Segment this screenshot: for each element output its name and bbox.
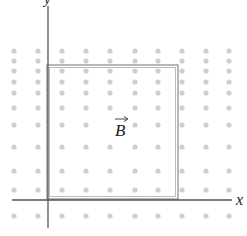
field-dot [83,68,88,73]
field-dot [35,48,40,53]
field-dot [132,48,137,53]
field-dot [226,168,231,173]
field-dot [203,213,208,218]
field-dot [35,68,40,73]
field-dot [83,90,88,95]
field-dot [35,122,40,127]
field-dot [132,79,137,84]
magnetic-field-label: B [115,117,128,141]
field-dot [132,68,137,73]
field-dot [155,213,160,218]
field-dot [226,48,231,53]
field-dot [59,168,64,173]
field-dot [179,90,184,95]
field-dot [155,144,160,149]
y-axis-label: y [42,0,51,7]
field-dot [155,122,160,127]
field-dot [203,122,208,127]
field-dot [83,105,88,110]
field-dot [132,144,137,149]
field-dot [179,168,184,173]
field-dot [59,79,64,84]
field-dot [132,213,137,218]
field-dot [155,105,160,110]
field-dot [83,58,88,63]
field-dot [132,168,137,173]
diagram-canvas: y x B [0,0,247,236]
field-dot [203,187,208,192]
field-dot [83,48,88,53]
field-dot [203,90,208,95]
field-symbol-b: B [115,121,126,140]
field-dot [226,187,231,192]
field-dot [203,68,208,73]
field-dot [203,105,208,110]
field-dot [35,105,40,110]
field-dot [155,79,160,84]
field-dot [35,213,40,218]
field-dot [107,68,112,73]
field-dot [155,168,160,173]
field-dot [107,213,112,218]
field-dot [226,90,231,95]
field-dot [107,90,112,95]
field-dot [35,168,40,173]
field-dot [132,187,137,192]
field-dot [203,79,208,84]
field-dot [11,144,16,149]
field-dot [83,187,88,192]
field-dot [226,144,231,149]
field-dot [59,213,64,218]
field-dot [107,187,112,192]
field-dot [11,79,16,84]
field-dot [83,122,88,127]
x-axis-label: x [235,191,243,208]
square-loop [47,65,178,199]
field-dot [203,144,208,149]
field-dot [226,79,231,84]
field-dot [11,213,16,218]
field-dot [11,122,16,127]
field-dot [179,58,184,63]
field-dot [155,58,160,63]
field-dot [179,68,184,73]
field-dot [11,187,16,192]
field-dot [107,144,112,149]
field-dot [107,105,112,110]
field-dot [179,122,184,127]
field-dot [83,213,88,218]
field-dot [226,58,231,63]
field-dot [83,144,88,149]
field-dot [179,79,184,84]
field-dot [107,48,112,53]
field-dot [107,58,112,63]
field-dot [11,58,16,63]
field-dot [35,187,40,192]
field-dot [179,144,184,149]
field-dot [155,48,160,53]
field-dot [35,79,40,84]
field-dot [11,48,16,53]
field-dot [59,58,64,63]
field-dot [35,90,40,95]
field-dot [35,58,40,63]
field-dot [179,213,184,218]
field-dot [59,187,64,192]
field-dot [179,48,184,53]
field-dot [132,90,137,95]
field-dot [155,68,160,73]
field-dot [83,168,88,173]
field-dot [59,90,64,95]
field-dot [59,105,64,110]
field-dot [226,122,231,127]
field-dot [11,105,16,110]
field-dot [155,187,160,192]
field-dot [132,58,137,63]
field-dot [107,79,112,84]
field-dot [226,68,231,73]
field-dot [155,90,160,95]
field-dot [203,58,208,63]
field-dot [59,144,64,149]
field-dot [203,168,208,173]
field-dot [11,68,16,73]
